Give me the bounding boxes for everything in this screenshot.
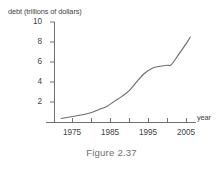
y-axis [50,22,55,123]
figure-caption: Figure 2.37 [0,147,223,158]
debt-data-line [61,37,190,118]
x-axis [46,118,196,123]
figure-container: debt (trillions of dollars) year 10 8 6 … [0,0,223,170]
plot-area [0,0,223,170]
